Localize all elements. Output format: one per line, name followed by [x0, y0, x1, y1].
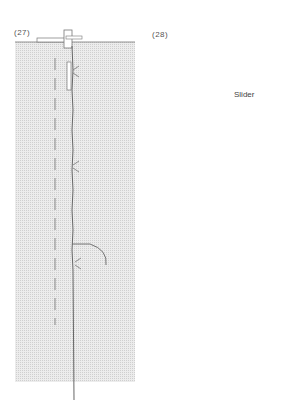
slider-callout: Slider [232, 90, 256, 99]
fabric-left-27 [15, 42, 135, 382]
panel-label-28: (28) [152, 30, 168, 39]
panel-27 [15, 30, 135, 400]
zipper-diagram [0, 0, 286, 400]
panel-label-27: (27) [14, 28, 30, 37]
